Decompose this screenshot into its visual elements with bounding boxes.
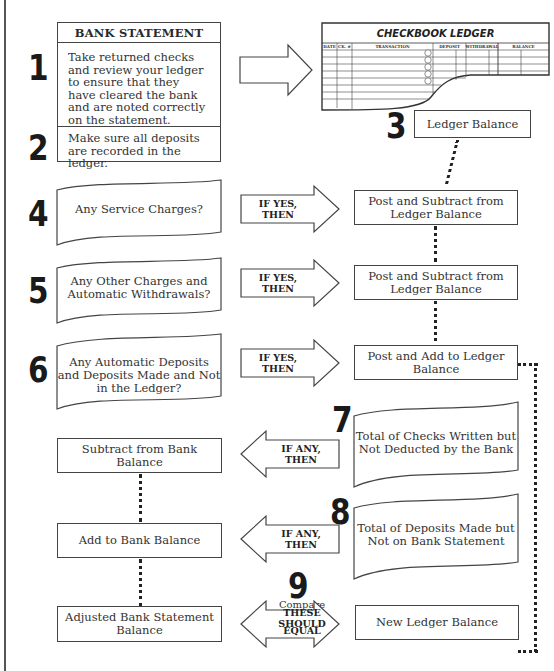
step2-text: Make sure all deposits are recorded in t… <box>58 127 220 176</box>
ledger-col-date: DATE <box>322 43 337 50</box>
checkbook-ledger: CHECKBOOK LEDGER DATE CK. # TRANSACTION … <box>321 22 550 110</box>
outstanding-checks-text: Total of Checks Written but Not Deducted… <box>354 420 518 466</box>
ledger-title: CHECKBOOK LEDGER <box>321 24 550 42</box>
new-ledger-balance-box: New Ledger Balance <box>355 605 519 640</box>
connector-right-vertical <box>534 363 540 652</box>
add-bank-balance-box: Add to Bank Balance <box>57 523 222 558</box>
bank-statement-header: BANK STATEMENT <box>58 23 220 43</box>
connector-7-to-8 <box>139 474 145 522</box>
ledger-col-check-number: CK. # <box>337 43 352 50</box>
page-border-left <box>4 0 6 671</box>
question-service-charges: Any Service Charges? <box>57 188 221 230</box>
if-yes-label-4: IF YES, THEN <box>242 195 314 223</box>
step1-text: Take returned checks and review your led… <box>58 43 220 127</box>
connector-3-to-4 <box>445 140 462 184</box>
ledger-col-transaction: TRANSACTION <box>352 43 433 50</box>
bank-statement-box: BANK STATEMENT Take returned checks and … <box>57 22 221 162</box>
connector-new-ledger-right <box>518 650 538 656</box>
adjusted-bank-balance-box: Adjusted Bank Statement Balance <box>57 606 222 642</box>
step-number-6: 6 <box>28 352 49 388</box>
should-equal-line1: THESE SHOULD <box>262 612 342 624</box>
action-box-6: Post and Add to Ledger Balance <box>354 345 518 380</box>
if-yes-label-5: IF YES, THEN <box>242 269 314 297</box>
subtract-bank-balance-box: Subtract from Bank Balance <box>57 438 222 473</box>
ledger-col-deposit: DEPOSIT <box>433 43 466 50</box>
question-other-charges: Any Other Charges and Automatic Withdraw… <box>57 266 221 310</box>
step-number-1: 1 <box>28 50 49 86</box>
ledger-col-withdrawal: WITHDRAWAL <box>466 43 498 50</box>
if-any-label-8: IF ANY, THEN <box>264 525 338 553</box>
connector-8-to-adjusted <box>139 559 145 607</box>
connector-5-to-6 <box>434 301 440 341</box>
step-number-4: 4 <box>28 196 49 232</box>
action-box-5: Post and Subtract from Ledger Balance <box>354 265 518 300</box>
if-any-label-7: IF ANY, THEN <box>264 440 338 468</box>
ledger-balance-box: Ledger Balance <box>414 110 531 138</box>
should-equal-line2: EQUAL <box>262 624 342 636</box>
action-box-4: Post and Subtract from Ledger Balance <box>354 190 518 225</box>
bank-statement-title: BANK STATEMENT <box>75 26 203 40</box>
if-yes-label-6: IF YES, THEN <box>242 349 314 377</box>
question-auto-deposits: Any Automatic Deposits and Deposits Made… <box>57 350 221 400</box>
connector-4-to-5 <box>434 226 440 262</box>
step-number-5: 5 <box>28 273 49 309</box>
step-number-2: 2 <box>28 130 49 166</box>
arrow-right-to-ledger-icon <box>240 45 312 95</box>
step-number-3: 3 <box>386 108 407 144</box>
outstanding-deposits-text: Total of Deposits Made but Not on Bank S… <box>354 512 518 558</box>
ledger-col-balance: BALANCE <box>498 43 549 50</box>
